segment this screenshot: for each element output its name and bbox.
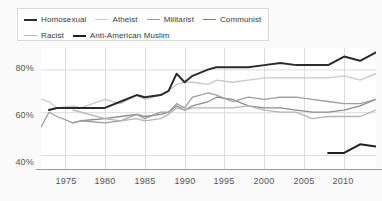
plot-area	[41, 48, 376, 170]
legend-label: Racist	[41, 31, 64, 40]
legend-item-homosexual: Homosexual	[24, 15, 86, 24]
x-axis-tick-label: 2005	[284, 176, 324, 186]
x-axis-tick-label: 2000	[244, 176, 284, 186]
y-axis-tick-label: 40%	[6, 157, 34, 167]
legend-label: Militarist	[164, 15, 194, 24]
y-axis-tick-label: 60%	[6, 110, 34, 120]
legend-swatch-icon	[95, 19, 108, 20]
x-axis-tick-label: 2010	[323, 176, 363, 186]
legend-label: Homosexual	[41, 15, 86, 24]
legend-label: Communist	[220, 15, 261, 24]
legend-swatch-icon	[147, 19, 160, 20]
x-axis-tick-label: 1990	[165, 176, 205, 186]
legend-row: Homosexual Atheist Militarist Communist	[24, 13, 262, 26]
x-axis-tick-label: 1975	[46, 176, 86, 186]
legend-item-anti-american-muslim: Anti-American Muslim	[73, 31, 170, 40]
x-axis-tick-label: 1985	[125, 176, 165, 186]
legend-label: Anti-American Muslim	[90, 31, 170, 40]
plot-background	[41, 48, 376, 170]
legend-item-atheist: Atheist	[95, 15, 137, 24]
legend-swatch-icon	[24, 19, 37, 21]
chart-legend: Homosexual Atheist Militarist Communist …	[17, 8, 269, 41]
line-chart: Homosexual Atheist Militarist Communist …	[0, 0, 382, 201]
legend-item-racist: Racist	[24, 31, 64, 40]
legend-swatch-icon	[24, 35, 37, 36]
legend-row: Racist Anti-American Muslim	[24, 29, 262, 42]
x-axis-tick-label: 1995	[204, 176, 244, 186]
legend-swatch-icon	[73, 35, 86, 37]
y-axis-tick-label: 80%	[6, 63, 34, 73]
legend-item-communist: Communist	[203, 15, 261, 24]
legend-item-militarist: Militarist	[147, 15, 194, 24]
legend-swatch-icon	[203, 19, 216, 20]
legend-label: Atheist	[112, 15, 137, 24]
x-axis-tick-label: 1980	[85, 176, 125, 186]
